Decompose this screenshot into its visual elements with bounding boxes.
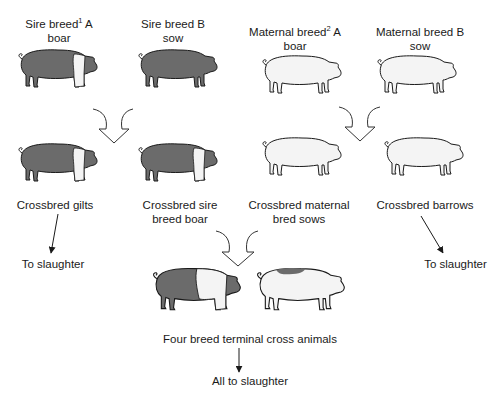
merge-arrow-terminal [216,231,258,266]
arrows-layer [0,0,497,398]
merge-arrow-maternal [339,107,380,141]
arrow-barrows-to-slaughter [421,216,443,253]
arrow-gilts-to-slaughter [51,214,58,253]
merge-arrow-sire [93,109,133,143]
